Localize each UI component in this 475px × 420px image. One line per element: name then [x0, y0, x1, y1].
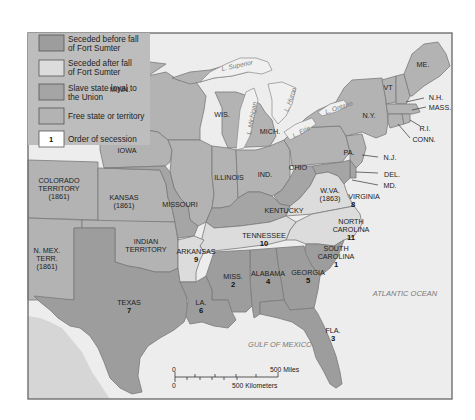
legend-swatch-seceded-after [39, 60, 64, 76]
label-minn: MINN. [110, 85, 130, 94]
legend-swatch-slave-loyal [39, 84, 64, 100]
label-nmex-year: (1861) [37, 262, 58, 271]
label-kentucky: KENTUCKY [264, 206, 303, 215]
label-ind: IND. [258, 170, 272, 179]
scale-km-zero: 0 [172, 382, 176, 389]
order-tennessee: 10 [260, 239, 268, 248]
label-ohio: OHIO [289, 163, 308, 172]
label-wva-year: (1863) [320, 194, 341, 203]
scale-miles-zero: 0 [172, 366, 176, 373]
label-missouri: MISSOURI [162, 200, 198, 209]
legend-label: of Fort Sumter [68, 68, 121, 77]
order-virginia: 8 [351, 200, 355, 209]
secession-map: Seceded before fall of Fort Sumter Seced… [0, 0, 475, 420]
order-arkansas: 9 [194, 255, 198, 264]
order-miss: 2 [231, 280, 235, 289]
order-fla: 3 [331, 334, 335, 343]
label-atlantic-ocean: ATLANTIC OCEAN [372, 289, 438, 298]
label-del: DEL. [384, 170, 400, 179]
legend-swatch-seceded-before [39, 35, 64, 51]
legend-swatch-free [39, 108, 64, 124]
legend-label: Seceded after fall [68, 59, 132, 68]
label-ny: N.Y. [362, 111, 375, 120]
label-wis: WIS. [214, 110, 230, 119]
label-nh: N.H. [429, 93, 443, 102]
legend-label: Seceded before fall [68, 35, 139, 44]
label-kansas-year: (1861) [114, 201, 135, 210]
label-vt: VT [383, 83, 393, 92]
state-mass[interactable] [386, 104, 420, 114]
label-pa: PA. [343, 148, 354, 157]
order-la: 6 [199, 306, 203, 315]
label-md: MD. [383, 181, 396, 190]
label-me: ME. [417, 60, 430, 69]
label-conn: CONN. [412, 135, 435, 144]
label-iowa: IOWA [118, 146, 137, 155]
label-nj: N.J. [384, 153, 397, 162]
label-mass: MASS. [429, 103, 451, 112]
scale-miles-label: 500 Miles [270, 366, 300, 373]
label-indian-2: TERRITORY [125, 245, 166, 254]
legend-label: the Union [68, 93, 103, 102]
label-colorado-year: (1861) [49, 192, 70, 201]
legend-label: Order of secession [68, 135, 137, 144]
scale-km-label: 500 Kilometers [232, 382, 278, 389]
legend: Seceded before fall of Fort Sumter Seced… [28, 33, 150, 147]
label-mich: MICH. [260, 127, 280, 136]
label-gulf-of-mexico: GULF OF MEXICO [248, 340, 312, 349]
order-texas: 7 [127, 306, 131, 315]
order-ncarolina: 11 [347, 233, 356, 242]
label-ri: R.I. [419, 124, 430, 133]
legend-label: of Fort Sumter [68, 44, 121, 53]
legend-label: Free state or territory [68, 112, 145, 121]
label-illinois: ILLINOIS [214, 173, 244, 182]
